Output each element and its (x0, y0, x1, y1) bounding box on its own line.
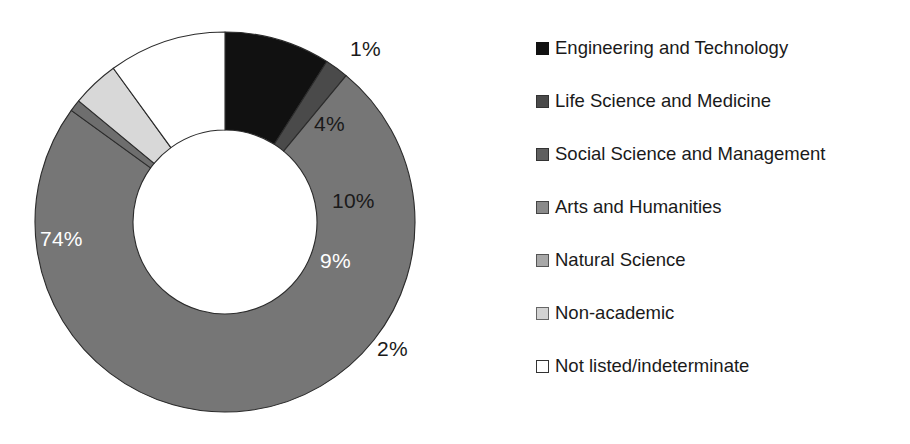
legend-item-label: Life Science and Medicine (555, 91, 771, 111)
legend-swatch-icon (536, 95, 549, 108)
legend-swatch-icon (536, 148, 549, 161)
legend-item-arts-and-humanities[interactable]: Arts and Humanities (536, 181, 902, 234)
legend-item-label: Not listed/indeterminate (555, 356, 749, 376)
legend-swatch-icon (536, 201, 549, 214)
legend-swatch-icon (536, 254, 549, 267)
legend-item-label: Social Science and Management (555, 144, 825, 164)
legend-item-non-academic[interactable]: Non-academic (536, 287, 902, 340)
chart-legend: Engineering and Technology Life Science … (536, 22, 902, 393)
slice-label-engineering-and-technology: 9% (320, 250, 351, 271)
legend-swatch-icon (536, 360, 549, 373)
legend-item-label: Arts and Humanities (555, 197, 722, 217)
legend-item-life-science-and-medicine[interactable]: Life Science and Medicine (536, 75, 902, 128)
slice-label-social-science-and-management: 74% (40, 228, 83, 249)
slice-label-life-science-and-medicine: 2% (377, 338, 408, 359)
legend-item-label: Natural Science (555, 250, 686, 270)
legend-item-not-listed-indeterminate[interactable]: Not listed/indeterminate (536, 340, 902, 393)
legend-swatch-icon (536, 42, 549, 55)
legend-item-label: Non-academic (555, 303, 674, 323)
legend-swatch-icon (536, 307, 549, 320)
slice-label-natural-science: 1% (350, 38, 381, 59)
donut-chart-plot-area: 74% 1% 4% 10% 9% 2% (0, 0, 470, 444)
slice-label-non-academic: 4% (314, 113, 345, 134)
slice-label-not-listed-indeterminate: 10% (332, 190, 375, 211)
legend-item-label: Engineering and Technology (555, 38, 788, 58)
legend-item-natural-science[interactable]: Natural Science (536, 234, 902, 287)
donut-chart-figure: 74% 1% 4% 10% 9% 2% Engineering and Tech… (0, 0, 910, 444)
donut-chart-svg (0, 0, 470, 444)
legend-item-engineering-and-technology[interactable]: Engineering and Technology (536, 22, 902, 75)
legend-item-social-science-and-management[interactable]: Social Science and Management (536, 128, 902, 181)
